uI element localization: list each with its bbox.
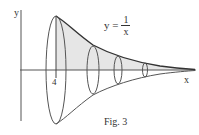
tick-label-4: 4 <box>52 78 57 87</box>
fraction-numerator: 1 <box>121 14 130 26</box>
figure-canvas <box>0 0 199 135</box>
fraction: 1 x <box>121 14 130 37</box>
x-axis-label: x <box>184 75 189 85</box>
function-lhs: y = <box>104 20 118 31</box>
function-label: y = 1 x <box>104 14 130 37</box>
figure-caption: Fig. 3 <box>104 117 127 127</box>
fraction-denominator: x <box>123 26 128 37</box>
y-axis-label: y <box>14 8 19 18</box>
